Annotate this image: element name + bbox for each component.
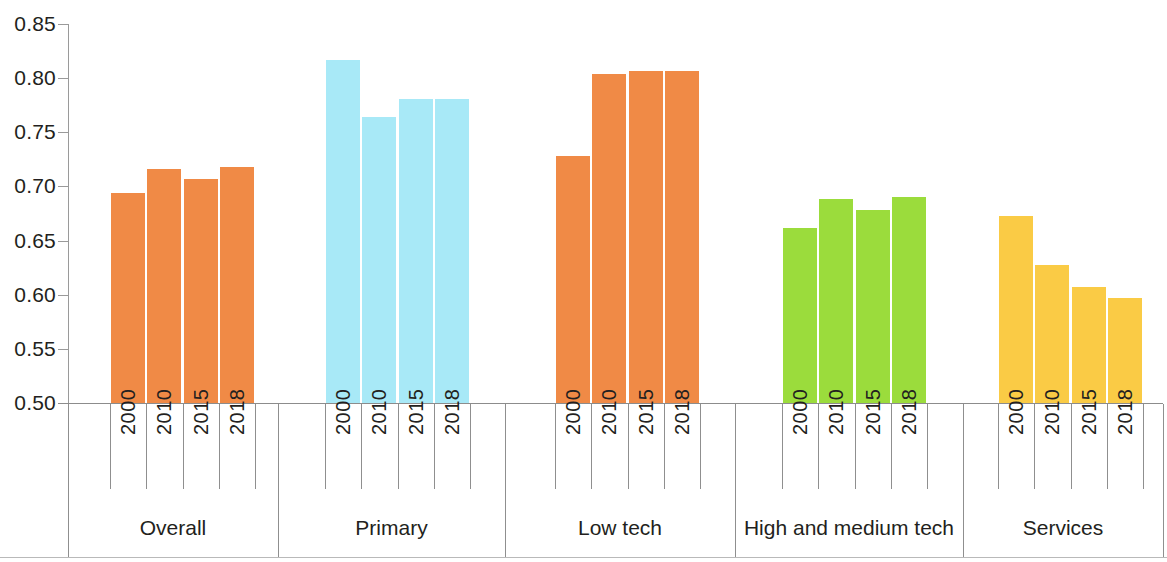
x-axis-year-label: 2000 xyxy=(333,389,353,436)
x-axis-year-label: 2000 xyxy=(790,389,810,436)
bar xyxy=(892,197,926,403)
x-axis-tick xyxy=(146,404,147,489)
x-axis-year-label: 2018 xyxy=(899,389,919,436)
x-axis-tick xyxy=(891,404,892,489)
y-axis-tick-label: 0.85 xyxy=(0,13,56,34)
y-axis-tick-label: 0.55 xyxy=(0,338,56,359)
x-axis-year-label: 2000 xyxy=(563,389,583,436)
bar xyxy=(399,99,433,403)
y-axis-tick-label-text: 0.80 xyxy=(4,67,56,88)
bar xyxy=(592,74,626,403)
y-axis-tick-label-text: 0.65 xyxy=(4,230,56,251)
x-axis-tick xyxy=(818,404,819,489)
x-axis-tick xyxy=(325,404,326,489)
x-axis-tick xyxy=(1071,404,1072,489)
group-separator xyxy=(1163,404,1164,557)
x-axis-tick xyxy=(855,404,856,489)
bar xyxy=(1072,287,1106,403)
y-axis-tick-label-text: 0.50 xyxy=(4,392,56,413)
x-axis-year-label: 2015 xyxy=(406,389,426,436)
x-axis-year-label: 2015 xyxy=(1079,389,1099,436)
y-axis-tick-label-text: 0.55 xyxy=(4,338,56,359)
y-axis-tick xyxy=(58,132,69,133)
x-axis-tick xyxy=(555,404,556,489)
y-axis-tick-label-text: 0.70 xyxy=(4,175,56,196)
x-axis-year-label: 2018 xyxy=(672,389,692,436)
bar xyxy=(819,199,853,403)
group-label-high-medium-tech: High and medium tech xyxy=(735,516,963,540)
group-label-primary: Primary xyxy=(278,516,505,540)
x-axis-tick xyxy=(628,404,629,489)
y-axis-tick xyxy=(58,78,69,79)
x-axis-tick xyxy=(1107,404,1108,489)
bar xyxy=(147,169,181,403)
x-axis-tick xyxy=(1143,404,1144,489)
x-axis-tick xyxy=(434,404,435,489)
x-axis-year-label: 2010 xyxy=(826,389,846,436)
x-axis-year-label: 2015 xyxy=(636,389,656,436)
x-axis-tick xyxy=(219,404,220,489)
y-axis-tick xyxy=(58,186,69,187)
x-axis-tick xyxy=(110,404,111,489)
x-axis-year-label: 2010 xyxy=(599,389,619,436)
y-axis-tick-label-text: 0.60 xyxy=(4,284,56,305)
x-axis-year-label: 2010 xyxy=(154,389,174,436)
x-axis-year-label: 2010 xyxy=(369,389,389,436)
y-axis-tick xyxy=(58,349,69,350)
bar xyxy=(184,179,218,403)
x-axis-tick xyxy=(255,404,256,489)
x-axis-tick xyxy=(470,404,471,489)
bar xyxy=(1108,298,1142,403)
y-axis-tick-label-text: 0.75 xyxy=(4,121,56,142)
group-label-services: Services xyxy=(963,516,1163,540)
y-axis-tick-label-text: 0.85 xyxy=(4,13,56,34)
y-axis-tick-label: 0.70 xyxy=(0,175,56,196)
y-axis-tick-label: 0.80 xyxy=(0,67,56,88)
y-axis-tick xyxy=(58,241,69,242)
y-axis-tick xyxy=(58,295,69,296)
y-axis-line xyxy=(68,24,69,403)
bottom-rule xyxy=(0,557,1167,558)
x-axis-tick xyxy=(1034,404,1035,489)
y-axis-tick-label: 0.75 xyxy=(0,121,56,142)
bar-chart: 0.850.800.750.700.650.600.550.50 Overall… xyxy=(0,0,1167,562)
bar xyxy=(111,193,145,403)
x-axis-year-label: 2015 xyxy=(191,389,211,436)
y-axis-tick-label: 0.50 xyxy=(0,392,56,413)
bar xyxy=(999,216,1033,403)
x-axis-tick xyxy=(700,404,701,489)
x-axis-tick xyxy=(183,404,184,489)
y-axis-tick xyxy=(58,24,69,25)
x-axis-tick xyxy=(664,404,665,489)
bar xyxy=(629,71,663,403)
bar xyxy=(362,117,396,403)
y-axis-tick-label: 0.60 xyxy=(0,284,56,305)
group-label-overall: Overall xyxy=(68,516,278,540)
bar xyxy=(783,228,817,403)
x-axis-year-label: 2000 xyxy=(118,389,138,436)
bar xyxy=(220,167,254,403)
x-axis-tick xyxy=(361,404,362,489)
x-axis-tick xyxy=(398,404,399,489)
x-axis-tick xyxy=(591,404,592,489)
x-axis-year-label: 2000 xyxy=(1006,389,1026,436)
x-axis-year-label: 2018 xyxy=(442,389,462,436)
x-axis-tick xyxy=(927,404,928,489)
x-axis-year-label: 2018 xyxy=(227,389,247,436)
bar xyxy=(1035,265,1069,403)
bar xyxy=(665,71,699,403)
group-label-low-tech: Low tech xyxy=(505,516,735,540)
y-axis-tick-label: 0.65 xyxy=(0,230,56,251)
x-axis-year-label: 2015 xyxy=(863,389,883,436)
x-axis-tick xyxy=(998,404,999,489)
bar xyxy=(326,60,360,403)
x-axis-tick xyxy=(782,404,783,489)
bar xyxy=(435,99,469,403)
x-axis-year-label: 2010 xyxy=(1042,389,1062,436)
x-axis-year-label: 2018 xyxy=(1115,389,1135,436)
bar xyxy=(556,156,590,403)
bar xyxy=(856,210,890,403)
